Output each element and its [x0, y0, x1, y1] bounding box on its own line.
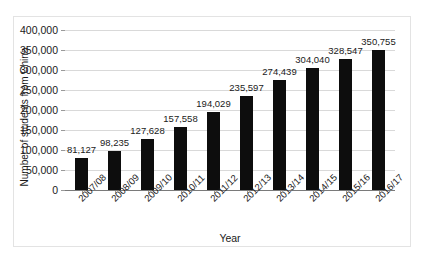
bar — [306, 68, 319, 190]
bar — [174, 127, 187, 190]
plot-area: 81,12798,235127,628157,558194,029235,597… — [65, 30, 395, 190]
bar-value-label: 274,439 — [250, 67, 310, 77]
y-axis-tick-label: 400,000 — [20, 25, 58, 35]
bar-value-label: 194,029 — [184, 99, 244, 109]
bar — [339, 59, 352, 190]
bar-value-label: 328,547 — [316, 46, 376, 56]
bar-value-label: 127,628 — [118, 126, 178, 136]
bar-value-label: 304,040 — [283, 55, 343, 65]
bar-value-label: 350,755 — [349, 37, 409, 47]
x-axis-title: Year — [65, 232, 395, 244]
y-axis-tick-label: 300,000 — [20, 65, 58, 75]
y-axis-tick-label: 150,000 — [20, 125, 58, 135]
bar — [273, 80, 286, 190]
gridline — [65, 30, 395, 31]
y-axis-tick-label: 0 — [52, 185, 58, 195]
bar — [240, 96, 253, 190]
y-axis-tick-label: 250,000 — [20, 85, 58, 95]
y-axis-tick-label: 50,000 — [26, 165, 58, 175]
bar-value-label: 98,235 — [85, 138, 145, 148]
y-axis-tick-label: 350,000 — [20, 45, 58, 55]
bar — [207, 112, 220, 190]
bar — [372, 50, 385, 190]
bar-value-label: 157,558 — [151, 114, 211, 124]
bar-value-label: 235,597 — [217, 83, 277, 93]
y-axis-tick-label: 200,000 — [20, 105, 58, 115]
bar-chart-figure: Number of students from China 400,000350… — [0, 0, 426, 260]
